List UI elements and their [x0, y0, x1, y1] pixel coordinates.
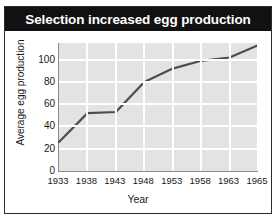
gridline-vertical: [172, 43, 174, 171]
chart-title-bar: Selection increased egg production: [5, 7, 271, 31]
x-tick-label: 1948: [133, 175, 154, 186]
plot-wrapper: Average egg production 020406080100 1933…: [5, 31, 271, 214]
gridline-vertical: [143, 43, 145, 171]
x-tick-label: 1958: [190, 175, 211, 186]
x-tick-label: 1965: [246, 175, 267, 186]
x-tick-label: 1943: [104, 175, 125, 186]
gridline-vertical: [115, 43, 117, 171]
plot-area: [58, 43, 258, 172]
x-axis-label: Year: [5, 193, 271, 205]
gridline-vertical: [257, 43, 259, 171]
gridline-vertical: [86, 43, 88, 171]
y-axis-tick-labels: 020406080100: [25, 31, 55, 214]
x-tick-label: 1933: [47, 175, 68, 186]
x-tick-label: 1953: [161, 175, 182, 186]
y-axis-label: Average egg production: [15, 33, 26, 153]
gridline-vertical: [200, 43, 202, 171]
chart-title: Selection increased egg production: [25, 12, 250, 27]
gridline-vertical: [229, 43, 231, 171]
x-tick-label: 1963: [218, 175, 239, 186]
y-tick-label: 40: [44, 121, 55, 131]
y-tick-label: 60: [44, 99, 55, 109]
y-tick-label: 100: [38, 55, 55, 65]
y-tick-label: 20: [44, 144, 55, 154]
x-tick-label: 1938: [76, 175, 97, 186]
y-tick-label: 80: [44, 77, 55, 87]
chart-figure: Selection increased egg production Avera…: [4, 6, 272, 214]
x-axis-tick-labels: 19331938194319481953195819631965: [58, 175, 257, 189]
